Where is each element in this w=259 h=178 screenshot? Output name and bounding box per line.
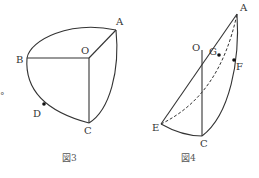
label-o: O xyxy=(192,42,200,53)
label-b: B xyxy=(16,54,23,65)
label-c: C xyxy=(84,125,92,136)
label-d: D xyxy=(33,108,41,119)
caption-fig3: 図3 xyxy=(62,153,77,163)
point-g xyxy=(217,53,221,57)
label-a: A xyxy=(115,16,124,27)
arc-a-c xyxy=(202,14,238,136)
edge-e-a xyxy=(161,14,237,124)
label-e: E xyxy=(152,122,159,133)
figure-3: A O B C D 図3 xyxy=(16,16,124,163)
figure-4: A O G F E C 図4 xyxy=(152,2,248,163)
label-f: F xyxy=(236,61,243,72)
label-o: O xyxy=(81,45,89,56)
label-a: A xyxy=(239,2,248,13)
arc-b-a xyxy=(27,27,116,58)
caption-fig4: 図4 xyxy=(181,153,196,163)
label-g: G xyxy=(209,46,217,57)
edge-o-a xyxy=(89,30,116,58)
diagram-canvas: A O B C D 図3 A O G F E C 図4 ° xyxy=(0,0,259,178)
point-d xyxy=(42,102,46,106)
label-c: C xyxy=(200,138,208,149)
arc-e-c xyxy=(161,124,202,136)
margin-mark: ° xyxy=(0,91,5,101)
